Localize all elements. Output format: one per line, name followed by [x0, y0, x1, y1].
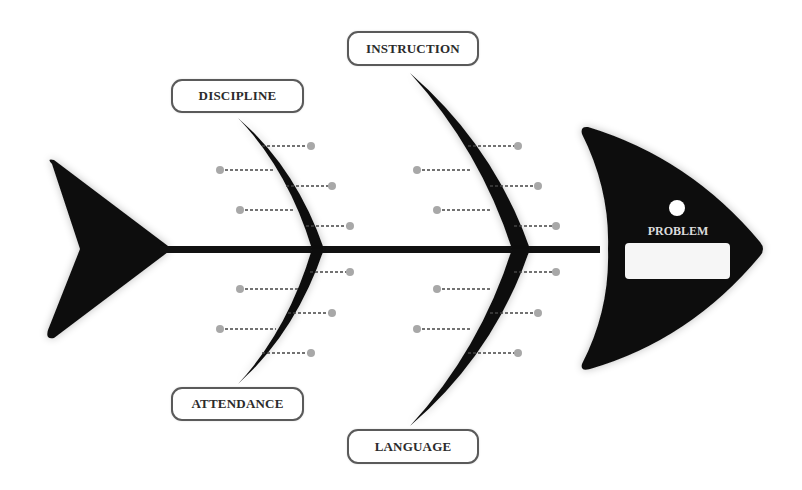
cause-dot[interactable]: [514, 349, 522, 357]
causes-discipline: [216, 142, 354, 230]
category-label: LANGUAGE: [375, 439, 452, 455]
cause-dot[interactable]: [346, 222, 354, 230]
cause-dot[interactable]: [552, 222, 560, 230]
cause-dot[interactable]: [552, 268, 560, 276]
cause-dot[interactable]: [328, 309, 336, 317]
problem-title: PROBLEM: [623, 224, 733, 239]
causes-instruction: [413, 142, 560, 230]
fish-eye: [669, 200, 685, 216]
problem-input-box[interactable]: [625, 243, 730, 279]
cause-dot[interactable]: [236, 285, 244, 293]
cause-dot[interactable]: [328, 182, 336, 190]
causes-language: [413, 268, 560, 357]
bone-instruction: [410, 73, 530, 249]
category-label: ATTENDANCE: [191, 396, 283, 412]
fish-spine: [160, 246, 600, 253]
cause-dot[interactable]: [433, 206, 441, 214]
category-label: INSTRUCTION: [366, 41, 460, 57]
cause-dot[interactable]: [534, 309, 542, 317]
bone-attendance: [238, 249, 324, 384]
cause-dot[interactable]: [216, 325, 224, 333]
cause-dot[interactable]: [216, 166, 224, 174]
cause-dot[interactable]: [307, 142, 315, 150]
category-instruction[interactable]: INSTRUCTION: [347, 31, 479, 66]
bone-language: [410, 249, 530, 426]
cause-dot[interactable]: [514, 142, 522, 150]
cause-dot[interactable]: [236, 206, 244, 214]
category-attendance[interactable]: ATTENDANCE: [171, 387, 304, 421]
cause-dot[interactable]: [433, 285, 441, 293]
causes-attendance: [216, 268, 354, 357]
cause-dot[interactable]: [413, 325, 421, 333]
category-discipline[interactable]: DISCIPLINE: [171, 79, 304, 113]
cause-dot[interactable]: [346, 268, 354, 276]
category-label: DISCIPLINE: [199, 88, 277, 104]
fish-tail: [47, 160, 168, 339]
bone-discipline: [238, 118, 324, 249]
cause-dot[interactable]: [413, 166, 421, 174]
category-language[interactable]: LANGUAGE: [347, 429, 479, 464]
cause-dot[interactable]: [307, 349, 315, 357]
cause-dot[interactable]: [534, 182, 542, 190]
